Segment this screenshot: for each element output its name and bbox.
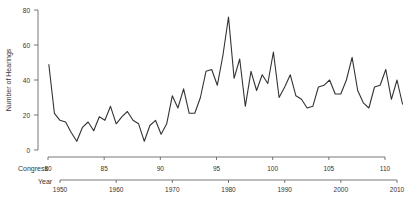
year-axis-label: Year (38, 178, 53, 185)
y-tick-label: 20 (23, 112, 31, 119)
year-tick-label: 1960 (109, 186, 124, 193)
congress-tick-label: 105 (323, 165, 334, 172)
congress-axis: 85909510010511080 (44, 157, 390, 172)
y-axis-label: Number of Hearings (5, 48, 13, 111)
year-tick-label: 1970 (165, 186, 180, 193)
congress-tick-label: 85 (101, 165, 109, 172)
congress-tick-label: 100 (267, 165, 278, 172)
year-tick-label: 1990 (277, 186, 292, 193)
year-tick-label: 1950 (53, 186, 68, 193)
y-tick-label: 80 (23, 7, 31, 14)
congress-tick-label: 95 (213, 165, 221, 172)
y-tick-label: 40 (23, 77, 31, 84)
chart-canvas: 020406080 Number of Hearings 85909510010… (0, 0, 410, 198)
year-tick-label: 2010 (390, 186, 405, 193)
y-tick-label: 0 (26, 147, 30, 154)
year-tick-label: 2000 (334, 186, 349, 193)
y-tick-label: 60 (23, 42, 31, 49)
hearings-line-chart: 020406080 Number of Hearings 85909510010… (0, 0, 410, 198)
congress-tick-label: 90 (157, 165, 165, 172)
year-axis: 1950196019701980199020002010 (53, 180, 405, 193)
year-tick-label: 1980 (221, 186, 236, 193)
congress-axis-label: Congress (18, 165, 48, 173)
congress-tick-label: 110 (380, 165, 391, 172)
hearings-series-line (49, 17, 403, 141)
y-axis: 020406080 (23, 7, 38, 154)
